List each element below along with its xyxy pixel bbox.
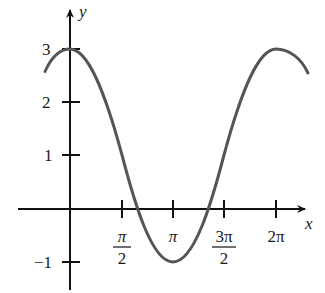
x-tick-label-2pi: 2π bbox=[267, 227, 285, 246]
chart-canvas: y x 3 2 1 −1 π 2 π 3π 2 2π bbox=[0, 0, 325, 293]
svg-text:3π: 3π bbox=[215, 227, 233, 246]
x-tick-label-pi-over-2: π 2 bbox=[113, 227, 131, 268]
x-tick-label-3pi-over-2: 3π 2 bbox=[212, 227, 236, 268]
x-tick-label-pi: π bbox=[169, 227, 178, 246]
svg-text:π: π bbox=[118, 227, 127, 246]
x-axis-label: x bbox=[304, 214, 313, 233]
y-tick-label-1: 1 bbox=[44, 146, 53, 165]
svg-text:2: 2 bbox=[118, 249, 127, 268]
svg-text:2: 2 bbox=[220, 249, 229, 268]
y-axis-label: y bbox=[77, 2, 87, 21]
y-tick-label-neg1: −1 bbox=[34, 253, 52, 272]
y-tick-label-2: 2 bbox=[42, 93, 51, 112]
y-tick-label-3: 3 bbox=[42, 40, 51, 59]
